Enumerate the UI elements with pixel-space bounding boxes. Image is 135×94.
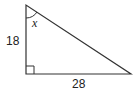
right-angle-marker (26, 66, 34, 74)
angle-x-label: x (31, 16, 38, 30)
vertical-leg-label: 18 (6, 34, 20, 48)
triangle-diagram: x 18 28 (0, 0, 135, 94)
horizontal-leg-label: 28 (72, 77, 86, 91)
right-triangle (26, 5, 131, 74)
